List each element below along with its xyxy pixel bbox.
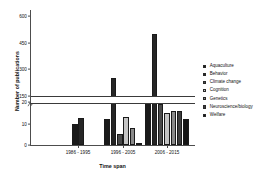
x-axis-line bbox=[30, 145, 195, 146]
y-axis-line bbox=[30, 10, 31, 145]
legend-swatch-icon bbox=[203, 73, 206, 76]
bar-aquaculture bbox=[72, 124, 78, 146]
y-axis-tick-mark bbox=[28, 123, 30, 124]
bar-cognition bbox=[123, 117, 129, 145]
bar-genetics bbox=[171, 111, 177, 145]
bar-aquaculture bbox=[145, 100, 151, 145]
axis-break-band bbox=[31, 96, 195, 104]
legend-swatch-icon bbox=[203, 105, 206, 108]
legend-swatch-icon bbox=[203, 81, 206, 84]
bar-neuroscience-biology bbox=[136, 143, 142, 145]
bar-genetics bbox=[130, 128, 136, 145]
y-axis-tick-mark bbox=[28, 42, 30, 43]
legend-item-label: Neuroscience/biology bbox=[210, 105, 253, 110]
x-axis-tick-mark bbox=[78, 145, 79, 148]
legend-item-label: Welfare bbox=[210, 113, 225, 118]
legend-item-label: Cognition bbox=[210, 88, 229, 93]
x-axis-title: Time span bbox=[30, 163, 195, 169]
bar-behavior bbox=[111, 78, 117, 145]
bar-cognition bbox=[164, 113, 170, 145]
legend-item: Climate change bbox=[203, 78, 267, 86]
legend-swatch-icon bbox=[203, 89, 206, 92]
x-axis-tick-mark bbox=[167, 145, 168, 148]
x-axis-tick-label: 1986 - 1995 bbox=[66, 150, 91, 155]
x-axis-tick-label: 2006 - 2015 bbox=[155, 150, 180, 155]
legend-item-label: Behavior bbox=[210, 72, 228, 77]
legend-item-label: Climate change bbox=[210, 80, 241, 85]
x-axis-tick-label: 1996 - 2005 bbox=[111, 150, 136, 155]
legend-item: Behavior bbox=[203, 70, 267, 78]
y-axis-tick-mark bbox=[28, 145, 30, 146]
legend-item: Cognition bbox=[203, 87, 267, 95]
bar-climate-change bbox=[158, 104, 164, 145]
y-axis-tick-mark bbox=[28, 16, 30, 17]
legend-item: Welfare bbox=[203, 111, 267, 119]
bar-behavior bbox=[78, 118, 84, 145]
bar-climate-change bbox=[117, 134, 123, 145]
legend-item-label: Aquaculture bbox=[210, 64, 234, 69]
legend-item: Neuroscience/biology bbox=[203, 103, 267, 111]
legend-swatch-icon bbox=[203, 97, 206, 100]
legend-item: Aquaculture bbox=[203, 62, 267, 70]
legend-swatch-icon bbox=[203, 65, 206, 68]
plot-area: 01020150300450600 1986 - 19951996 - 2005… bbox=[30, 10, 195, 145]
legend-item: Genetics bbox=[203, 95, 267, 103]
bar-behavior bbox=[152, 34, 158, 145]
bar-neuroscience-biology bbox=[177, 111, 183, 145]
chart-figure: Number of publications 01020150300450600… bbox=[0, 0, 269, 184]
x-axis-tick-mark bbox=[123, 145, 124, 148]
y-axis-tick-mark bbox=[28, 69, 30, 70]
bar-welfare bbox=[183, 119, 189, 145]
bar-aquaculture bbox=[104, 119, 110, 145]
legend-swatch-icon bbox=[203, 114, 206, 117]
chart-legend: AquacultureBehaviorClimate changeCogniti… bbox=[203, 62, 267, 119]
legend-item-label: Genetics bbox=[210, 97, 228, 102]
